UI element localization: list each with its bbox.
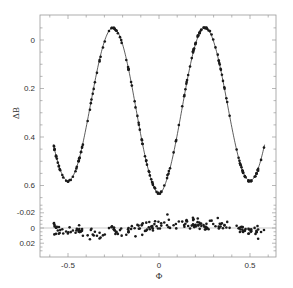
observation-points	[53, 26, 266, 195]
resid-ytick-0: 0	[31, 224, 36, 233]
ytick-0: 0	[31, 36, 36, 45]
resid-ytick-pos: 0.02	[19, 239, 35, 248]
x-axis-label: Φ	[156, 271, 163, 281]
y-axis-label: ΔB	[11, 107, 21, 119]
resid-ytick-neg: -0.02	[17, 208, 36, 217]
ytick-0.4: 0.4	[24, 133, 36, 142]
ytick-0.2: 0.2	[24, 84, 36, 93]
model-curve	[53, 28, 264, 194]
xtick-0: 0	[157, 261, 162, 270]
ytick-0.6: 0.6	[24, 181, 36, 190]
xtick-0.5: 0.5	[244, 261, 256, 270]
light-curve-chart: 0 0.2 0.4 0.6 -0.02 0 0.02 -0.5 0 0.5 Φ …	[0, 0, 293, 288]
residual-points	[53, 213, 266, 240]
xtick-neg-0.5: -0.5	[61, 261, 75, 270]
